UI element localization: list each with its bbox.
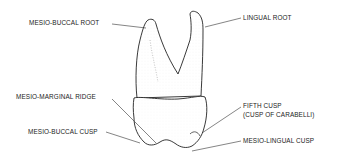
- label-cusp-of-carabelli: (CUSP OF CARABELLI): [243, 111, 314, 119]
- leader-lingual-root: [205, 18, 241, 27]
- leader-fifth-cusp: [202, 107, 241, 133]
- label-lingual-root: LINGUAL ROOT: [243, 14, 292, 22]
- label-fifth-cusp: FIFTH CUSP: [243, 102, 282, 110]
- label-mesio-buccal-root: MESIO-BUCCAL ROOT: [29, 19, 99, 27]
- leader-mesio-buccal-root: [112, 24, 146, 28]
- tooth-illustration: [133, 11, 207, 147]
- label-mesio-lingual-cusp: MESIO-LINGUAL CUSP: [243, 137, 314, 145]
- label-mesio-marginal-ridge: MESIO-MARGINAL RIDGE: [16, 93, 96, 101]
- leader-mesio-buccal-cusp: [106, 132, 140, 143]
- leader-mesio-lingual-cusp: [192, 141, 241, 151]
- label-mesio-buccal-cusp: MESIO-BUCCAL CUSP: [28, 128, 98, 136]
